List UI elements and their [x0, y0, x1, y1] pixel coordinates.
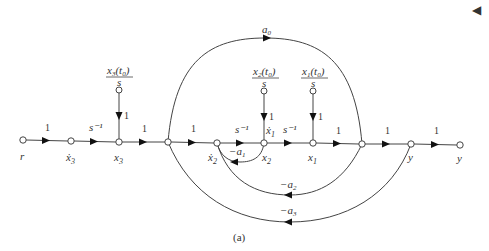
ic-fraction-x1: x1(t0) s	[301, 65, 328, 89]
arrow-icon	[90, 138, 98, 145]
node-label-x2dot: ẋ2	[207, 151, 217, 166]
node-r	[20, 137, 26, 143]
node-n8	[359, 141, 365, 147]
arrow-icon	[284, 219, 292, 226]
node-label-x1: x1	[307, 151, 317, 166]
node-x1	[310, 140, 316, 146]
svg-text:s: s	[311, 77, 315, 89]
arrow-icon	[116, 112, 123, 120]
node-label-y: y	[407, 151, 413, 163]
arrow-icon	[333, 140, 341, 147]
ic-gain-label: 1	[318, 111, 323, 122]
figure-caption: (a)	[233, 231, 246, 244]
arrow-icon	[310, 113, 317, 121]
feedback-label-a2: −a2	[280, 178, 297, 192]
signal-flow-graph: 1 s⁻¹ 1 1 s⁻¹ s⁻¹ 1 1 1 1 1 1 r ẋ3 x3 ẋ2…	[0, 0, 489, 251]
arrow-icon	[261, 113, 268, 121]
arrow-icon	[188, 139, 196, 146]
arrow-icon	[284, 192, 292, 199]
gain-label: 1	[336, 125, 341, 136]
ic-fraction-x2: x2(t0) s	[252, 65, 279, 89]
ic-fraction-x3: x3(t0) s	[106, 64, 133, 88]
svg-text:s: s	[117, 76, 121, 88]
node-x3	[116, 139, 122, 145]
node-x2	[261, 140, 267, 146]
gain-label: s⁻¹	[89, 121, 103, 133]
node-label-r: r	[20, 150, 25, 162]
ic-gain-label: 1	[269, 111, 274, 122]
node-y	[408, 141, 414, 147]
arrow-icon	[431, 141, 439, 148]
feedback-label-a3: −a3	[280, 204, 297, 218]
node-label-x2: x2	[261, 151, 271, 166]
arrow-icon	[230, 159, 238, 166]
arrow-icon	[42, 137, 50, 144]
gain-label: 1	[434, 125, 439, 136]
ic-gain-label: 1	[124, 110, 129, 121]
gain-label: 1	[385, 125, 390, 136]
node-label-x3: x3	[113, 151, 123, 166]
node-y-out	[457, 142, 463, 148]
node-x2dot	[214, 140, 220, 146]
gain-labels: 1 s⁻¹ 1 1 s⁻¹ s⁻¹ 1 1 1 1 1 1	[45, 110, 439, 136]
arrow-icon	[284, 140, 292, 147]
svg-text:s: s	[262, 77, 266, 89]
feedback-label-a1: −a1	[229, 145, 245, 159]
gain-label: 1	[45, 122, 50, 133]
arrow-icon	[139, 139, 147, 146]
gain-label: 1	[191, 123, 196, 134]
gain-label: s⁻¹	[283, 123, 297, 135]
gain-label: s⁻¹	[235, 123, 249, 135]
node-label-x3dot: ẋ3	[65, 151, 75, 166]
node-label-x1dot: ẋ1	[265, 124, 275, 139]
gain-label: 1	[142, 123, 147, 134]
node-x3dot	[68, 138, 74, 144]
corner-triangle-icon[interactable]: ◀	[472, 3, 482, 17]
node-n4	[165, 139, 171, 145]
node-label-y-out: y	[456, 152, 462, 164]
arrow-icon	[382, 141, 390, 148]
feedforward-label-a0: a0	[262, 23, 272, 37]
